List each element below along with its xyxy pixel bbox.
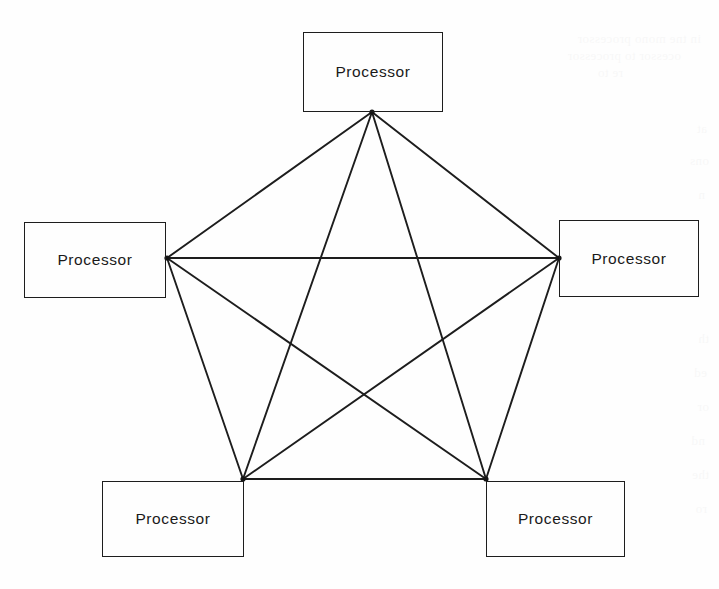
processor-node-left[interactable]: Processor bbox=[24, 222, 166, 298]
processor-node-label: Processor bbox=[335, 63, 410, 81]
edge-top-to-bottom-left bbox=[243, 112, 372, 479]
diagram-page: in tne mono processorocessor to processo… bbox=[0, 0, 719, 589]
processor-node-bottom-right[interactable]: Processor bbox=[486, 481, 625, 557]
processor-node-label: Processor bbox=[518, 510, 593, 528]
edge-top-to-bottom-right bbox=[372, 112, 486, 479]
processor-node-label: Processor bbox=[57, 251, 132, 269]
edge-right-to-bottom-right bbox=[486, 258, 559, 479]
edge-top-to-right bbox=[372, 112, 559, 258]
edge-left-to-bottom-left bbox=[167, 258, 243, 479]
processor-node-label: Processor bbox=[591, 250, 666, 268]
edge-left-to-bottom-right bbox=[167, 258, 486, 479]
edge-right-to-bottom-left bbox=[243, 258, 559, 479]
processor-node-right[interactable]: Processor bbox=[559, 220, 699, 297]
processor-node-label: Processor bbox=[135, 510, 210, 528]
edge-top-to-left bbox=[167, 112, 372, 258]
processor-node-top[interactable]: Processor bbox=[303, 32, 443, 112]
edges-group bbox=[167, 112, 559, 479]
processor-node-bottom-left[interactable]: Processor bbox=[102, 481, 244, 557]
